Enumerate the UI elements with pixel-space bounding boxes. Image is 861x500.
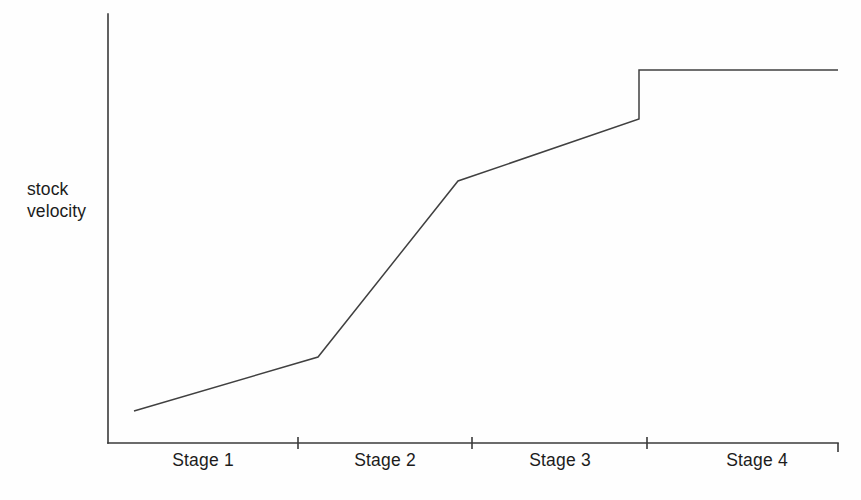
chart-plot-area (0, 0, 861, 500)
stock-velocity-line (134, 70, 838, 411)
data-series-group (134, 70, 838, 411)
y-axis-label: stockvelocity (27, 178, 107, 222)
chart-container: stockvelocity Stage 1 Stage 2 Stage 3 St… (0, 0, 861, 500)
y-axis-label-line1: stock (27, 179, 68, 199)
x-tick-label-stage-1: Stage 1 (172, 450, 234, 471)
y-axis-label-line2: velocity (27, 201, 86, 221)
x-tick-label-stage-3: Stage 3 (529, 450, 591, 471)
x-tick-label-stage-4: Stage 4 (726, 450, 788, 471)
x-tick-label-stage-2: Stage 2 (354, 450, 416, 471)
